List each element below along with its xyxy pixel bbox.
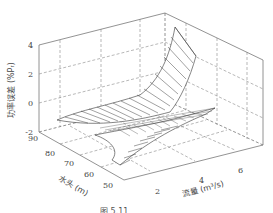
y-tick: 60	[84, 170, 94, 179]
z-tick: 4	[28, 41, 33, 50]
y-tick: 90	[28, 134, 38, 143]
x-tick: 6	[238, 166, 243, 175]
z-axis: 4 2 0 -2 功率误差 (%Pᵣ)	[6, 41, 33, 137]
z-axis-label: 功率误差 (%Pᵣ)	[6, 62, 16, 117]
x-tick: 2	[155, 187, 160, 196]
figure-caption: 图 5.11	[100, 207, 128, 213]
y-tick: 70	[64, 159, 74, 168]
y-tick: 80	[45, 149, 55, 158]
z-tick: 2	[28, 70, 33, 79]
y-tick: 50	[103, 181, 113, 190]
surface-chart: 4 2 0 -2 功率误差 (%Pᵣ) 90 80 70 60 50 水头 (m…	[0, 0, 273, 213]
surface-wireframe	[57, 27, 215, 165]
y-axis: 90 80 70 60 50 水头 (m)	[28, 134, 113, 198]
z-tick: 0	[28, 99, 33, 108]
x-axis: 2 4 6 流量 (m³/s)	[155, 166, 243, 199]
